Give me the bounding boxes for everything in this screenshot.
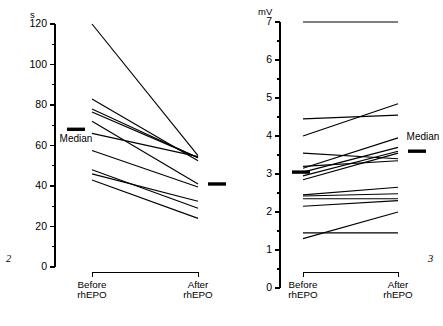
- y-axis-tick-label: 60: [35, 139, 47, 151]
- data-line: [92, 174, 198, 201]
- data-line: [92, 24, 198, 156]
- category-label-after-unit: rhEPO: [183, 289, 213, 300]
- data-line: [303, 212, 398, 239]
- data-line: [303, 104, 398, 136]
- category-bracket: [303, 272, 398, 277]
- y-axis-unit-label: mV: [258, 6, 273, 17]
- y-axis-tick-label: 20: [35, 220, 47, 232]
- y-axis-tick-label: 100: [29, 58, 47, 70]
- median-label-after: Median: [407, 131, 440, 142]
- data-line: [92, 112, 198, 158]
- data-line: [303, 201, 398, 207]
- category-label-after-unit: rhEPO: [383, 289, 413, 300]
- data-line: [303, 153, 398, 159]
- panel-left: 020406080100120sMedianBeforerhEPOAfterrh…: [6, 9, 226, 300]
- y-axis-tick-label: 40: [35, 179, 47, 191]
- y-axis-tick-label: 80: [35, 98, 47, 110]
- y-axis-tick-label: 5: [266, 91, 272, 103]
- y-axis-tick-label: 6: [266, 53, 272, 65]
- data-line: [303, 153, 398, 180]
- y-axis-unit-label: s: [30, 9, 35, 20]
- y-axis-tick-label: 0: [266, 281, 272, 293]
- data-line-group: [92, 24, 198, 218]
- category-label-before-unit: rhEPO: [288, 289, 318, 300]
- y-axis-tick-label: 4: [266, 129, 272, 141]
- category-bracket: [92, 272, 198, 277]
- data-line: [92, 170, 198, 208]
- data-line: [92, 180, 198, 218]
- two-panel-paired-line-figure: 020406080100120sMedianBeforerhEPOAfterrh…: [0, 0, 443, 326]
- y-axis-tick-label: 2: [266, 205, 272, 217]
- figure-root: 020406080100120sMedianBeforerhEPOAfterrh…: [0, 0, 443, 326]
- y-axis-tick-label: 3: [266, 167, 272, 179]
- y-axis-tick-label: 7: [266, 15, 272, 27]
- median-label-before: Median: [60, 133, 93, 144]
- category-label-before-unit: rhEPO: [77, 289, 107, 300]
- y-axis-tick-label: 0: [41, 260, 47, 272]
- data-line: [303, 115, 398, 119]
- data-line: [303, 147, 398, 172]
- figure-number: 3: [427, 253, 433, 264]
- panel-right: 01234567mVMedianBeforerhEPOAfterrhEPO3: [258, 6, 439, 300]
- data-line: [92, 151, 198, 187]
- figure-number: 2: [6, 253, 12, 264]
- y-axis-tick-label: 1: [266, 243, 272, 255]
- data-line-group: [303, 22, 398, 239]
